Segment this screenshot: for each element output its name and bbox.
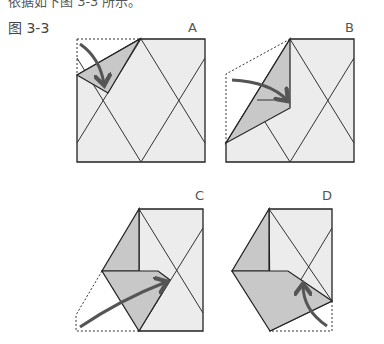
panel-b [226, 39, 354, 162]
panel-c [76, 209, 203, 331]
origami-fold-diagram [0, 0, 384, 344]
panel-a [77, 39, 205, 162]
panel-d [232, 209, 332, 331]
